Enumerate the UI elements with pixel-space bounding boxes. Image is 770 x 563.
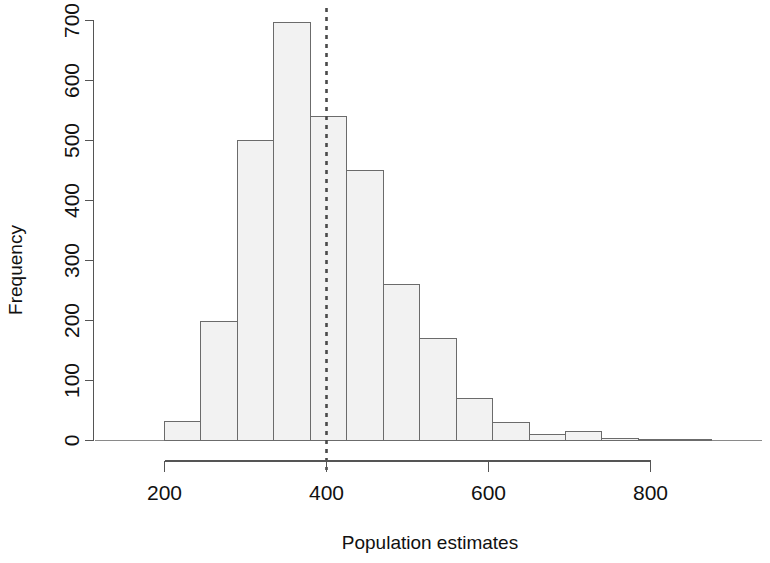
y-tick-label: 700: [60, 3, 83, 38]
x-tick-label: 400: [309, 481, 344, 504]
histogram-bar: [420, 339, 456, 441]
y-tick-label: 0: [60, 435, 83, 447]
histogram-bars: [165, 22, 712, 440]
histogram-bar: [237, 141, 273, 441]
histogram-bar: [529, 435, 565, 441]
y-tick-label: 500: [60, 123, 83, 158]
y-tick-label: 400: [60, 183, 83, 218]
y-tick-label: 300: [60, 243, 83, 278]
x-tick-group: [165, 461, 651, 472]
histogram-bar: [638, 439, 674, 440]
plot-area: [95, 8, 762, 470]
histogram-chart: 0100200300400500600700 Frequency 2004006…: [0, 0, 770, 563]
histogram-bar: [456, 399, 492, 441]
y-tick-label: 100: [60, 363, 83, 398]
histogram-bar: [165, 421, 201, 440]
x-tick-label: 800: [633, 481, 668, 504]
y-axis-title: Frequency: [5, 225, 26, 315]
histogram-bar: [310, 117, 346, 441]
histogram-bar: [602, 439, 638, 441]
y-tick-label-group: 0100200300400500600700: [60, 3, 83, 446]
histogram-bar: [675, 440, 711, 441]
x-axis-title: Population estimates: [342, 532, 518, 553]
y-axis: 0100200300400500600700 Frequency: [5, 3, 94, 446]
histogram-bar: [347, 171, 383, 441]
y-tick-group: [85, 21, 94, 441]
histogram-bar: [493, 423, 529, 441]
x-tick-label: 200: [147, 481, 182, 504]
histogram-bar: [201, 322, 237, 441]
y-tick-label: 600: [60, 63, 83, 98]
histogram-bar: [565, 432, 601, 441]
histogram-bar: [274, 22, 310, 440]
histogram-bar: [383, 285, 419, 441]
chart-canvas: 0100200300400500600700 Frequency 2004006…: [0, 0, 770, 563]
x-axis: 200400600800 Population estimates: [147, 461, 668, 553]
x-tick-label: 600: [471, 481, 506, 504]
x-tick-label-group: 200400600800: [147, 481, 668, 504]
y-tick-label: 200: [60, 303, 83, 338]
